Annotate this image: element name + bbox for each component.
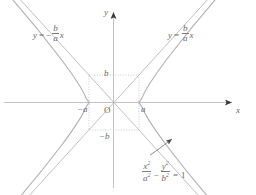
asymptote-left-variable: x <box>60 30 64 40</box>
origin-label: O <box>104 106 111 115</box>
asymptote-left-sign: − <box>46 30 51 40</box>
equation-right-hand-side: 1 <box>180 170 187 180</box>
equation-second-denominator: b2 <box>161 172 170 183</box>
tick-label-positive-a: a <box>141 105 146 114</box>
asymptote-left-denominator: a <box>52 34 59 43</box>
asymptote-right-equation: y= b a x <box>168 24 194 44</box>
equation-second-denominator-exponent: 2 <box>166 172 169 178</box>
tick-label-positive-b: b <box>104 69 109 78</box>
tick-label-negative-a: −a <box>77 105 88 114</box>
x-axis-label: x <box>236 106 240 115</box>
asymptote-right-fraction: b a <box>182 24 189 44</box>
hyperbola-figure: y x O −a a b −b y=− b a x y= b a x x2 a2… <box>0 0 256 195</box>
asymptote-right-equals: = <box>172 30 181 40</box>
equation-leader-line <box>150 139 172 155</box>
tick-label-negative-b: −b <box>99 132 110 141</box>
y-axis-label: y <box>104 8 108 17</box>
equation-first-numerator-exponent: 2 <box>147 160 150 166</box>
equation-first-denominator: a2 <box>142 172 151 183</box>
asymptote-left-fraction: b a <box>52 24 59 44</box>
asymptote-right-denominator: a <box>182 34 189 43</box>
equation-first-denominator-exponent: 2 <box>148 172 151 178</box>
asymptote-left-equals: = <box>37 30 46 40</box>
equation-first-numerator: x2 <box>142 160 151 172</box>
asymptote-right-variable: x <box>190 30 194 40</box>
equation-second-fraction: y2 b2 <box>161 160 170 184</box>
equation-equals-sign: = <box>171 170 180 180</box>
equation-second-numerator-exponent: 2 <box>166 160 169 166</box>
equation-operator: − <box>152 170 159 180</box>
hyperbola-equation: x2 a2 − y2 b2 =1 <box>141 160 187 184</box>
equation-second-numerator: y2 <box>161 160 170 172</box>
asymptote-left-equation: y=− b a x <box>33 24 64 44</box>
equation-first-fraction: x2 a2 <box>142 160 151 184</box>
